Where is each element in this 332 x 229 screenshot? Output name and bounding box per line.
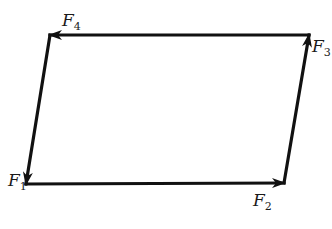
label-f3-letter: F	[312, 36, 324, 56]
vector-arrow-f1-to-f2	[26, 183, 284, 184]
label-f3-subscript: 3	[324, 46, 331, 59]
label-f2: F2	[253, 192, 272, 212]
label-f4-letter: F	[62, 10, 74, 30]
vector-arrow-f4-to-f1	[26, 35, 50, 184]
force-parallelogram-diagram	[0, 0, 332, 229]
label-f2-subscript: 2	[265, 200, 272, 213]
label-f1-subscript: 1	[20, 180, 27, 193]
vector-arrow-f2-to-f3	[284, 35, 309, 183]
label-f2-letter: F	[253, 190, 265, 210]
label-f1: F1	[8, 172, 27, 192]
label-f4-subscript: 4	[74, 20, 81, 33]
label-f3: F3	[312, 38, 331, 58]
label-f1-letter: F	[8, 170, 20, 190]
label-f4: F4	[62, 12, 81, 32]
